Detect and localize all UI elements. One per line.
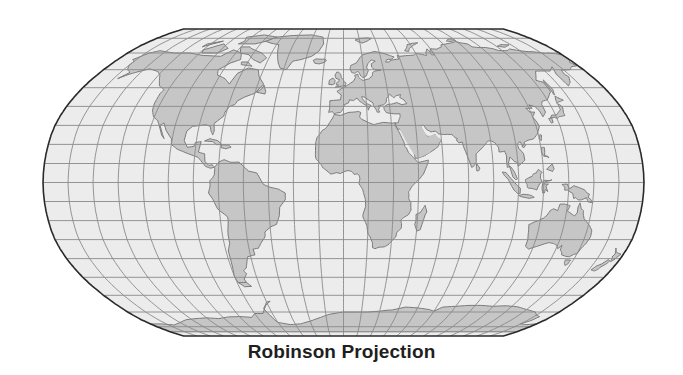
map-title: Robinson Projection (0, 341, 683, 363)
world-map (0, 0, 683, 375)
